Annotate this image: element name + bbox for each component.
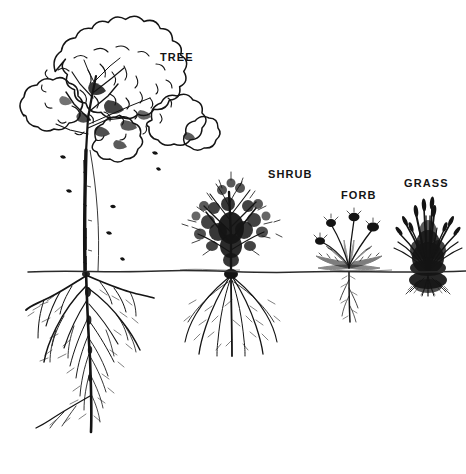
shrub-root-system — [184, 269, 280, 356]
label-tree: TREE — [160, 52, 194, 63]
label-grass: GRASS — [404, 178, 449, 189]
grass-root-system — [406, 271, 450, 296]
label-forb: FORB — [341, 190, 377, 201]
cropped-caption-strip — [0, 460, 466, 474]
falling-leaves — [60, 151, 161, 260]
shrub-foliage — [192, 179, 271, 268]
tree-root-system — [26, 271, 154, 432]
forb-root-system — [340, 272, 358, 322]
forb-flower-petals — [314, 208, 380, 238]
grass-base-mass — [410, 220, 446, 276]
tree-trunk — [83, 150, 99, 271]
soil-surface-line — [28, 269, 466, 272]
figure-illustration — [0, 0, 466, 474]
label-shrub: SHRUB — [268, 169, 313, 180]
plant-rooting-depth-figure: TREE SHRUB FORB GRASS — [0, 0, 466, 474]
tree-illustration — [20, 16, 220, 432]
grass-illustration — [394, 196, 462, 296]
shrub-illustration — [182, 172, 282, 356]
forb-illustration — [314, 208, 382, 322]
